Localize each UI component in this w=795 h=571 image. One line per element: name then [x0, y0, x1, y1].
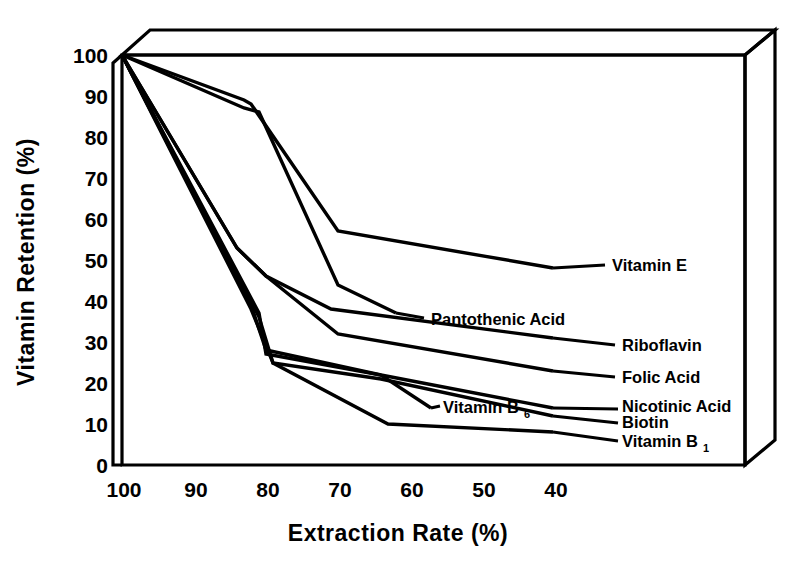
- leader-vitamin-b1: [553, 432, 618, 441]
- series-label-vitamin-b6-group: Vitamin B 6: [443, 398, 530, 420]
- y-tick-100: 100: [73, 44, 108, 67]
- y-tick-30: 30: [85, 331, 108, 354]
- frame-top-face: [122, 30, 775, 55]
- y-tick-40: 40: [85, 290, 108, 313]
- series-label-pantothenic-acid: Pantothenic Acid: [431, 310, 565, 328]
- leader-vitamin-b6: [431, 406, 440, 408]
- y-tick-50: 50: [85, 249, 108, 272]
- y-tick-0: 0: [96, 454, 108, 477]
- x-tick-60: 60: [400, 478, 423, 501]
- chart-page: 100 90 80 70 60 50 40 30 20 10 0 100 90 …: [0, 0, 795, 571]
- vitamin-retention-chart: 100 90 80 70 60 50 40 30 20 10 0 100 90 …: [0, 0, 795, 571]
- x-axis-title: Extraction Rate (%): [288, 520, 508, 546]
- y-tick-90: 90: [85, 85, 108, 108]
- series-label-vitamin-b6-subscript: 6: [524, 408, 530, 420]
- y-axis-ticks: 100 90 80 70 60 50 40 30 20 10 0: [73, 44, 108, 477]
- series-label-vitamin-b1: Vitamin B: [622, 432, 698, 450]
- series-label-vitamin-b1-subscript: 1: [703, 442, 709, 454]
- series-labels: Vitamin E Pantothenic Acid Riboflavin Fo…: [431, 256, 731, 454]
- series-line-riboflavin: [122, 55, 553, 338]
- series-label-folic-acid: Folic Acid: [622, 368, 700, 386]
- series-label-vitamin-b6: Vitamin B: [443, 398, 519, 416]
- y-tick-70: 70: [85, 167, 108, 190]
- leader-riboflavin: [553, 338, 615, 345]
- series-label-vitamin-b1-group: Vitamin B 1: [622, 432, 709, 454]
- y-tick-10: 10: [85, 413, 108, 436]
- series-label-riboflavin: Riboflavin: [622, 336, 702, 354]
- series-label-biotin: Biotin: [622, 413, 669, 431]
- y-tick-80: 80: [85, 126, 108, 149]
- x-axis-ticks: 100 90 80 70 60 50 40: [106, 478, 567, 501]
- y-tick-60: 60: [85, 208, 108, 231]
- y-axis-title: Vitamin Retention (%): [13, 138, 39, 386]
- series-line-biotin: [122, 55, 553, 416]
- leader-folic-acid: [553, 371, 615, 377]
- leader-biotin: [553, 416, 618, 423]
- series-line-vitamin-b6: [122, 55, 431, 408]
- frame-right-face: [745, 30, 775, 465]
- leader-vitamin-e: [553, 265, 605, 268]
- leader-nicotinic-acid: [553, 408, 618, 409]
- x-tick-40: 40: [544, 478, 567, 501]
- x-tick-90: 90: [184, 478, 207, 501]
- x-tick-100: 100: [106, 478, 141, 501]
- y-tick-20: 20: [85, 372, 108, 395]
- x-tick-50: 50: [472, 478, 495, 501]
- x-tick-80: 80: [256, 478, 279, 501]
- series-line-vitamin-b1: [122, 55, 553, 432]
- series-label-vitamin-e: Vitamin E: [612, 256, 687, 274]
- series-line-pantothenic-acid: [122, 55, 396, 313]
- x-tick-70: 70: [328, 478, 351, 501]
